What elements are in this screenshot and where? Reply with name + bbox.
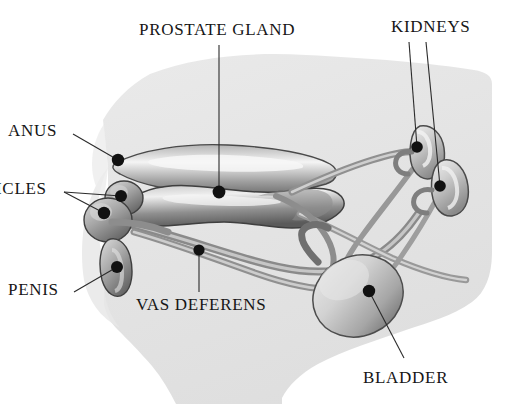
label-prostate-gland: PROSTATE GLAND bbox=[139, 21, 295, 38]
leader-dot-testicle-2 bbox=[98, 207, 110, 219]
leader-dot-bladder bbox=[363, 285, 375, 297]
label-penis: PENIS bbox=[8, 281, 59, 298]
label-anus: ANUS bbox=[8, 122, 57, 139]
label-bladder: BLADDER bbox=[363, 369, 448, 386]
anatomy-illustration bbox=[0, 0, 532, 420]
label-kidneys: KIDNEYS bbox=[391, 18, 471, 35]
leader-dot-testicle-1 bbox=[115, 190, 127, 202]
leader-dot-vas-deferens bbox=[193, 244, 204, 255]
label-vas-deferens: VAS DEFERENS bbox=[136, 296, 266, 313]
leader-dot-kidney-1 bbox=[411, 141, 423, 153]
leader-dot-penis bbox=[111, 261, 123, 273]
leader-dot-anus bbox=[112, 154, 124, 166]
leader-dot-prostate bbox=[213, 186, 226, 199]
leader-dot-kidney-2 bbox=[434, 180, 446, 192]
anatomy-diagram: ANUS ICLES PENIS PROSTATE GLAND KIDNEYS … bbox=[0, 0, 532, 420]
label-testicles: ICLES bbox=[0, 180, 47, 197]
